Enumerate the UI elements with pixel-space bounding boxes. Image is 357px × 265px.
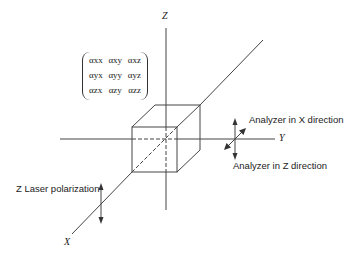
x-axis-label: X [64, 236, 70, 247]
z-axis-label: Z [162, 10, 168, 21]
left-paren [82, 52, 91, 100]
analyzer-z-label: Analyzer in Z direction [233, 160, 327, 171]
y-axis-label: Y [279, 132, 285, 143]
right-paren [139, 52, 148, 100]
x-axis [200, 40, 263, 105]
diagram-canvas [0, 0, 357, 265]
polarizability-tensor: αxx αxy αxz αyx αyy αyz αzx αzy αzz [82, 50, 148, 102]
laser-polarization-label: Z Laser polarization [16, 183, 99, 194]
analyzer-x-label: Analyzer in X direction [249, 114, 344, 125]
